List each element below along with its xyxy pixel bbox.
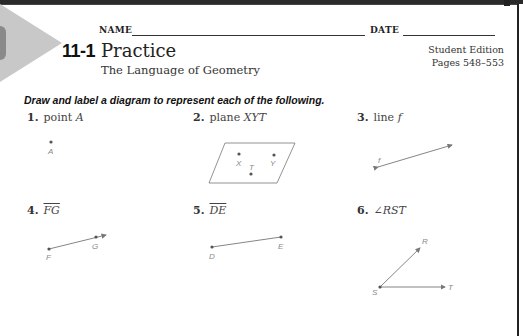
svg-text:T: T <box>448 283 454 292</box>
svg-text:R: R <box>422 237 428 246</box>
svg-text:Y: Y <box>270 159 276 168</box>
svg-text:X: X <box>235 159 242 168</box>
figure-line-f: f <box>378 145 452 167</box>
svg-text:E: E <box>278 242 284 251</box>
svg-text:A: A <box>47 147 53 156</box>
figure-point-a: A <box>47 140 53 156</box>
figure-angle-rst: R S T <box>372 237 454 297</box>
svg-text:F: F <box>46 253 52 262</box>
svg-text:T: T <box>249 163 255 172</box>
svg-text:S: S <box>372 288 378 297</box>
svg-text:f: f <box>378 156 381 165</box>
figure-segment-de: D E <box>209 235 284 261</box>
svg-text:G: G <box>92 242 98 251</box>
svg-text:D: D <box>209 252 215 261</box>
figure-plane-xyt: X T Y <box>209 143 295 183</box>
figure-ray-fg: F G <box>46 235 106 262</box>
diagrams: A X T Y f F G D E R S T <box>0 0 523 336</box>
